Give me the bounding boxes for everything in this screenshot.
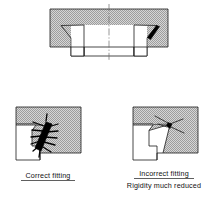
correct-fitting-caption: Correct fitting (26, 171, 71, 180)
recess-top-face-right (134, 25, 157, 26)
incorrect-upper-plate-hatch (133, 107, 198, 125)
incorrect-fitting-caption: Incorrect fitting (139, 169, 189, 178)
captions-group: Correct fitting Incorrect fitting Rigidi… (21, 169, 201, 190)
assembly-section-view (50, 4, 168, 61)
correct-upper-plate-hatch (16, 107, 81, 125)
rigidity-note-caption: Rigidity much reduced (127, 181, 201, 190)
drawing-canvas: Correct fitting Incorrect fitting Rigidi… (0, 0, 216, 204)
correct-fitting-detail (16, 107, 81, 160)
incorrect-fitting-detail (133, 107, 198, 160)
hub-left-leg (71, 47, 84, 56)
hub-right-leg (134, 47, 147, 56)
technical-drawing-figure: Correct fitting Incorrect fitting Rigidi… (0, 0, 216, 204)
recess-top-face-left (61, 25, 84, 26)
